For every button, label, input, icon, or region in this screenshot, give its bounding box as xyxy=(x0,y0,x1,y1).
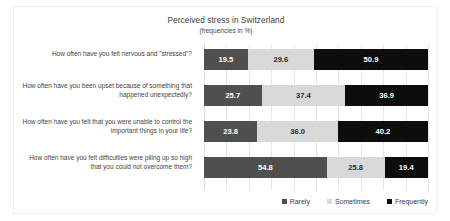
bar-segment-sometimes-0: 29.6 xyxy=(248,49,314,70)
category-label-0: How often have you felt nervous and "str… xyxy=(22,50,192,59)
bar-segment-sometimes-2: 36.0 xyxy=(257,121,338,142)
bar-segment-frequently-0: 50.9 xyxy=(314,49,428,70)
legend-swatch-icon-rarely xyxy=(282,199,287,204)
bar-segment-sometimes-3: 25.8 xyxy=(327,157,385,178)
bar-row-3: 54.8 25.8 19.4 xyxy=(204,157,428,178)
bar-segment-rarely-2: 23.8 xyxy=(204,121,257,142)
legend-swatch-icon-sometimes xyxy=(327,199,332,204)
bar-row-2: 23.8 36.0 40.2 xyxy=(204,121,428,142)
legend-item-frequently[interactable]: Frequently xyxy=(387,198,428,205)
category-label-3: How often have you felt difficulties wer… xyxy=(22,154,192,171)
legend-label-frequently: Frequently xyxy=(395,198,428,205)
chart-container: Perceived stress in Switzerland (frequen… xyxy=(13,6,437,214)
bar-segment-rarely-0: 19.5 xyxy=(204,49,248,70)
chart-legend: Rarely Sometimes Frequently xyxy=(14,198,428,205)
chart-title-block: Perceived stress in Switzerland (frequen… xyxy=(14,15,438,36)
bar-segment-rarely-1: 25.7 xyxy=(204,85,262,106)
chart-title: Perceived stress in Switzerland xyxy=(14,15,438,26)
bar-row-1: 25.7 37.4 36.9 xyxy=(204,85,428,106)
legend-label-rarely: Rarely xyxy=(290,198,310,205)
bar-segment-sometimes-1: 37.4 xyxy=(262,85,346,106)
bar-segment-rarely-3: 54.8 xyxy=(204,157,327,178)
bar-row-0: 19.5 29.6 50.9 xyxy=(204,49,428,70)
bar-segment-frequently-2: 40.2 xyxy=(338,121,428,142)
bar-segment-frequently-1: 36.9 xyxy=(345,85,428,106)
gridline xyxy=(428,44,429,190)
legend-item-rarely[interactable]: Rarely xyxy=(282,198,310,205)
legend-swatch-icon-frequently xyxy=(387,199,392,204)
legend-item-sometimes[interactable]: Sometimes xyxy=(327,198,370,205)
bar-segment-frequently-3: 19.4 xyxy=(385,157,428,178)
category-label-2: How often have you felt that you were un… xyxy=(22,118,192,135)
plot-area: 19.5 29.6 50.9 25.7 37.4 36.9 23.8 36.0 … xyxy=(204,44,428,190)
category-label-1: How often have you been upset because of… xyxy=(22,82,192,99)
legend-label-sometimes: Sometimes xyxy=(335,198,370,205)
chart-subtitle: (frequencies in %) xyxy=(14,26,438,36)
